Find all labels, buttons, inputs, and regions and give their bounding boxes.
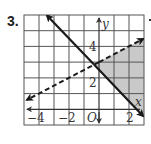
x-axis-label: x (135, 95, 142, 109)
inequality-graph: y x O −4 −2 2 4 2 (0, 0, 151, 144)
x-tick-label-neg2: −2 (58, 111, 76, 125)
y-tick-label-2: 2 (89, 76, 97, 90)
origin-label: O (87, 111, 97, 125)
y-tick-label-4: 4 (89, 40, 97, 54)
y-axis-label: y (101, 17, 109, 31)
x-tick-label-2: 2 (126, 111, 134, 125)
x-tick-label-neg4: −4 (27, 111, 45, 125)
